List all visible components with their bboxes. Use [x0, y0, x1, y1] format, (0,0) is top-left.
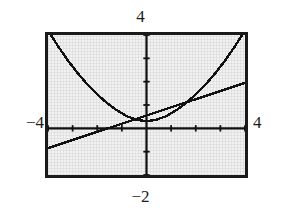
axis-label-right: 4: [253, 114, 277, 131]
axes-group: [48, 35, 245, 175]
axis-label-left: −4: [8, 114, 44, 131]
axis-label-top: 4: [0, 8, 281, 25]
axis-label-bottom: −2: [0, 188, 281, 205]
plot-frame: [45, 32, 248, 178]
plot-canvas: [48, 35, 245, 175]
graph-figure: 4 −4 4 −2: [0, 0, 281, 212]
